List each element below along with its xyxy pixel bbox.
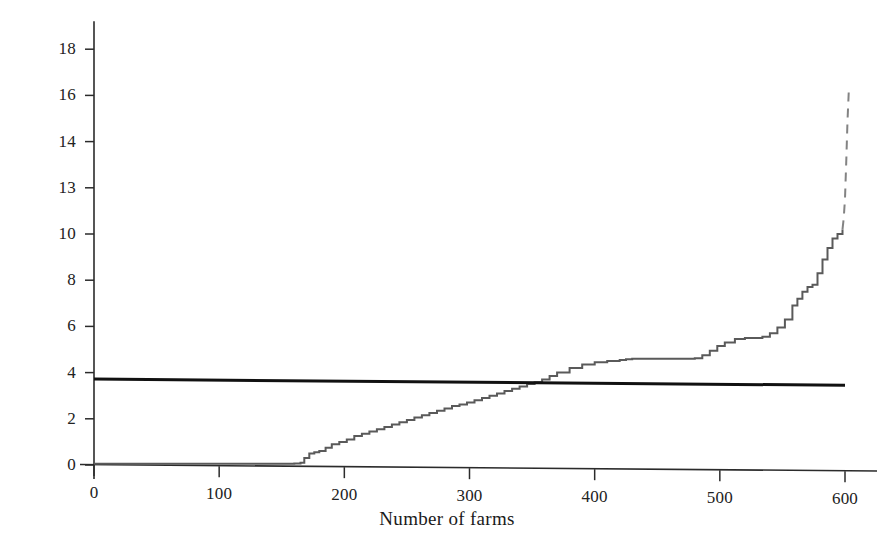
x-axis-line xyxy=(80,465,877,472)
x-axis-title: Number of farms xyxy=(0,508,894,530)
x-axis-tick-label: 0 xyxy=(90,483,99,503)
x-axis-tick-label: 600 xyxy=(832,489,858,509)
series-line-water-per-farm xyxy=(94,229,843,463)
y-axis-tick-label: 2 xyxy=(30,409,76,429)
x-axis-tick-label: 500 xyxy=(707,488,733,508)
series-line-water-per-farm-tail xyxy=(843,91,849,230)
x-axis-tick-label: 100 xyxy=(206,484,232,504)
data-series xyxy=(94,91,849,464)
y-axis-tick-label: 10 xyxy=(30,224,76,244)
y-axis-tick-label: 14 xyxy=(30,132,76,152)
y-axis-tick-label: 8 xyxy=(30,270,76,290)
axes xyxy=(80,21,877,482)
chart-plot-area xyxy=(0,0,894,548)
y-axis-tick-label: 16 xyxy=(30,85,76,105)
series-line-average-allotment xyxy=(94,379,845,385)
x-axis-tick-label: 400 xyxy=(582,487,608,507)
x-axis-tick-label: 200 xyxy=(331,485,357,505)
y-axis-tick-label: 4 xyxy=(30,363,76,383)
y-axis-tick-label: 0 xyxy=(30,455,76,475)
y-axis-tick-label: 6 xyxy=(30,316,76,336)
chart-figure: 0246810131416180100200300400500600 Water… xyxy=(0,0,894,548)
y-axis-tick-label: 13 xyxy=(30,178,76,198)
x-axis-tick-label: 300 xyxy=(456,486,482,506)
y-axis-tick-label: 18 xyxy=(30,39,76,59)
